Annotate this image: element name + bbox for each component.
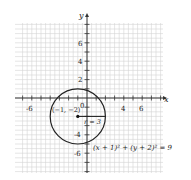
y-tick-label-6: 6: [78, 40, 83, 48]
x-tick-label-4: 4: [121, 105, 126, 113]
y-tick-label-2: 2: [78, 76, 82, 84]
y-tick-label-neg6: -6: [74, 150, 81, 158]
x-tick-label-neg6: -6: [26, 105, 33, 113]
y-tick-label-neg4: -4: [74, 131, 81, 139]
origin-label: 0: [80, 102, 84, 110]
equation-label: (x + 1)² + (y + 2)² = 9: [93, 144, 173, 152]
center-point: [76, 115, 79, 118]
x-tick-label-6: 6: [139, 105, 144, 113]
radius-label: r = 3: [84, 118, 101, 126]
x-axis-label: x: [164, 95, 169, 104]
y-tick-label-4: 4: [78, 58, 83, 66]
center-label: (−1, −2): [52, 106, 81, 114]
circle-graph: x y -6 4 6 6 4 2 -4 -6 0 (−1, −2) r = 3 …: [0, 0, 191, 180]
y-axis-label: y: [78, 11, 84, 20]
